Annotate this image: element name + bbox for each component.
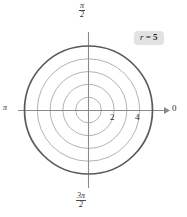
polar-axes	[18, 32, 170, 188]
callout-operator: =	[144, 32, 154, 42]
fraction-3pi-over-2: 3π 2	[76, 192, 86, 210]
polar-graph-figure: π 2 3π 2 π 0 2 4 r = 5	[0, 0, 187, 217]
callout-value: 5	[153, 32, 158, 42]
fraction-denominator: 2	[76, 201, 86, 209]
fraction-denominator: 2	[79, 11, 85, 19]
angle-label-pi-over-2: π 2	[79, 2, 85, 20]
right-axis-arrowhead	[164, 107, 170, 114]
radial-tick-label-4: 4	[135, 113, 140, 122]
radial-tick-label-2: 2	[110, 113, 115, 122]
angle-label-3pi-over-2: 3π 2	[76, 192, 86, 210]
equation-callout: r = 5	[134, 31, 164, 45]
fraction-pi-over-2: π 2	[79, 2, 85, 20]
angle-label-pi: π	[3, 104, 7, 112]
angle-label-zero: 0	[172, 104, 177, 113]
